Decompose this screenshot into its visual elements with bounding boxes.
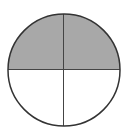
shaded-top-right-quarter (64, 14, 120, 70)
shaded-top-left-quarter (8, 14, 64, 70)
unshaded-bottom-left-quarter (8, 70, 64, 126)
unshaded-bottom-right-quarter (64, 70, 120, 126)
fraction-circle-diagram (0, 0, 129, 137)
